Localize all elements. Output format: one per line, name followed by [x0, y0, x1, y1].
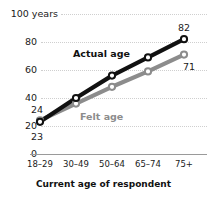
series-label-felt-age: Felt age	[80, 112, 123, 122]
value-label-24: 24	[31, 105, 43, 115]
data-point-felt-3	[145, 68, 151, 74]
plot-area	[0, 0, 207, 201]
age-perception-line-chart: 100 years 80 60 40 20 0 Actual age Felt …	[0, 0, 207, 201]
data-point-actual-1	[73, 95, 79, 101]
value-label-23: 23	[31, 132, 43, 142]
value-label-82: 82	[178, 23, 190, 33]
x-axis-line	[30, 154, 207, 155]
x-tick-label-4: 75+	[158, 160, 207, 169]
x-axis-title: Current age of respondent	[0, 180, 207, 189]
data-point-felt-4	[181, 52, 187, 58]
series-label-actual-age: Actual age	[73, 49, 130, 59]
data-point-actual-3	[145, 54, 151, 60]
data-point-felt-2	[109, 84, 115, 90]
value-label-71: 71	[183, 62, 195, 72]
data-point-actual-4	[181, 36, 187, 42]
data-point-actual-0	[37, 119, 43, 125]
data-point-actual-2	[109, 73, 115, 79]
